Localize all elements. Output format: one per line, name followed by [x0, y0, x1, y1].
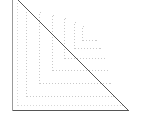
nested-triangle-svg — [0, 0, 141, 130]
figure-canvas — [0, 0, 141, 130]
